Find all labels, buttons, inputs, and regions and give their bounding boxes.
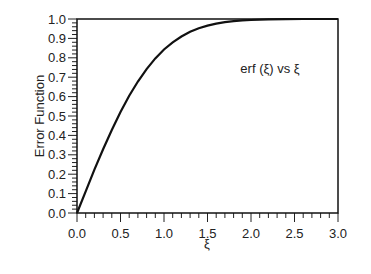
plot-frame [77,19,338,213]
y-tick-label: 0.0 [48,206,66,221]
y-tick-label: 0.8 [48,50,66,65]
x-tick-label: 0.5 [111,226,129,241]
x-tick-label: 2.5 [285,226,303,241]
y-tick-label: 0.6 [48,89,66,104]
erf-curve [77,19,338,213]
curve-annotation: erf (ξ) vs ξ [240,61,299,76]
y-axis-ticks: 0.00.10.20.30.40.50.60.70.80.91.0 [48,12,77,221]
y-tick-label: 0.2 [48,167,66,182]
y-tick-label: 0.3 [48,147,66,162]
y-tick-label: 0.9 [48,31,66,46]
x-tick-label: 1.0 [155,226,173,241]
y-tick-label: 0.7 [48,70,66,85]
erf-chart: 0.00.10.20.30.40.50.60.70.80.91.0 0.00.5… [0,0,371,274]
x-tick-label: 0.0 [68,226,86,241]
y-tick-label: 1.0 [48,12,66,27]
x-tick-label: 2.0 [242,226,260,241]
x-axis-title: ξ [204,236,210,251]
x-tick-label: 3.0 [329,226,347,241]
y-tick-label: 0.1 [48,186,66,201]
y-tick-label: 0.4 [48,128,66,143]
y-tick-label: 0.5 [48,109,66,124]
y-axis-title: Error Function [32,75,47,157]
